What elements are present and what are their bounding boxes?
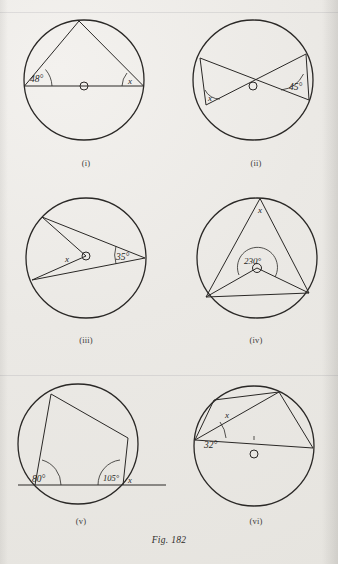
circle-outline-v: [18, 384, 138, 504]
panel-caption-iii: (iii): [6, 335, 166, 345]
panel-caption-i: (i): [6, 158, 166, 168]
angle-80-label: 80°: [32, 474, 46, 484]
panel-caption-v: (v): [6, 516, 156, 526]
angle-x-label: x: [207, 93, 212, 103]
chord-right-i: [79, 21, 144, 86]
panel-iii: 35° x (iii): [6, 190, 166, 335]
chord-a-ii: [200, 58, 309, 100]
panel-caption-iv: (iv): [176, 335, 336, 345]
side-top-v: [51, 394, 128, 438]
angle-x-label: x: [257, 205, 262, 215]
radius-lower-iii: [32, 256, 86, 280]
angle-230-label: 230°: [244, 256, 262, 266]
angle-48-label: 48°: [30, 74, 44, 84]
chord-right-end-ii: [306, 54, 309, 100]
angle-x-label: x: [64, 254, 69, 264]
angle-32-label: 32°: [203, 440, 218, 450]
panel-iv: 230° x (iv): [176, 190, 336, 335]
chord-upper-iii: [42, 217, 145, 258]
circle-outline-ii: [193, 20, 313, 140]
panel-caption-vi: (vi): [176, 516, 336, 526]
panel-caption-ii: (ii): [176, 158, 336, 168]
chord-diagonal-vi: [195, 392, 279, 440]
angle-arc-x-i: [122, 73, 127, 86]
angle-45-label: 45°: [289, 82, 303, 92]
centre-mark-vi: [250, 450, 258, 458]
chord-apex-right-iv: [260, 199, 309, 294]
chord-top-vi: [214, 392, 279, 400]
centre-mark-ii: [249, 82, 257, 90]
panel-i: 48° x (i): [6, 8, 166, 158]
panel-ii: 45° x (ii): [176, 8, 336, 158]
chord-b-ii: [206, 54, 306, 105]
angle-105-label: 105°: [103, 473, 120, 483]
figure-caption: Fig. 182: [0, 535, 338, 545]
angle-35-label: 35°: [115, 252, 130, 262]
base-chord-iv: [206, 293, 309, 297]
radius-upper-iii: [42, 217, 86, 256]
panel-v: 80° 105° x (v): [6, 378, 176, 518]
chord-left-end-ii: [200, 58, 206, 105]
side-left-v: [35, 394, 51, 485]
panel-vi: 32° x (vi): [176, 378, 336, 518]
angle-arc-48-i: [46, 70, 53, 87]
radius-right-iv: [257, 268, 309, 293]
scanned-page: 48° x (i) 45° x (ii): [0, 0, 338, 564]
figure-grid: 48° x (i) 45° x (ii): [0, 0, 338, 564]
angle-x-label: x: [127, 475, 132, 485]
angle-x-label: x: [127, 76, 132, 86]
angle-x-label: x: [224, 410, 229, 420]
